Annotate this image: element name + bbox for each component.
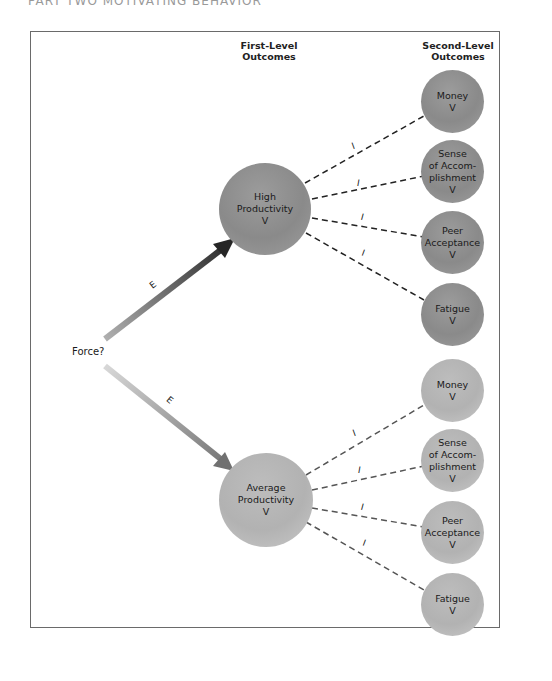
node-label: V	[449, 473, 456, 485]
node-accomplishment-bottom: Sense of Accom- plishment V	[421, 429, 484, 492]
node-label: V	[449, 605, 456, 617]
node-fatigue-bottom: Fatigue V	[421, 573, 484, 636]
node-label: V	[449, 539, 456, 551]
node-peer-acceptance-top: Peer Acceptance V	[421, 211, 484, 274]
node-label: Sense	[438, 437, 467, 449]
node-label: Fatigue	[435, 303, 470, 315]
node-label: V	[449, 391, 456, 403]
node-money-bottom: Money V	[421, 359, 484, 422]
node-peer-acceptance-bottom: Peer Acceptance V	[421, 501, 484, 564]
node-label: Productivity	[237, 203, 293, 215]
node-label: V	[263, 506, 270, 518]
node-label: Peer	[442, 515, 463, 527]
node-label: V	[449, 102, 456, 114]
node-label: Fatigue	[435, 593, 470, 605]
node-label: Average	[246, 482, 285, 494]
node-label: Sense	[438, 148, 467, 160]
node-label: Money	[437, 379, 469, 391]
node-fatigue-top: Fatigue V	[421, 283, 484, 346]
node-label: of Accom-	[429, 160, 476, 172]
node-label: Money	[437, 90, 469, 102]
node-label: Peer	[442, 225, 463, 237]
instrumentality-lines-bottom	[306, 405, 424, 590]
node-label: Acceptance	[425, 237, 480, 249]
node-money-top: Money V	[421, 70, 484, 133]
node-label: V	[449, 315, 456, 327]
node-label: High	[254, 191, 276, 203]
node-label: plishment	[429, 461, 476, 473]
node-accomplishment-top: Sense of Accom- plishment V	[421, 140, 484, 203]
expectancy-arrow-top	[105, 238, 235, 339]
node-average-productivity: Average Productivity V	[219, 453, 313, 547]
node-label: Acceptance	[425, 527, 480, 539]
expectancy-arrow-bottom	[105, 366, 234, 471]
node-label: Productivity	[238, 494, 294, 506]
instrumentality-lines-top	[305, 116, 424, 300]
node-label: V	[449, 184, 456, 196]
node-label: of Accom-	[429, 449, 476, 461]
node-high-productivity: High Productivity V	[219, 163, 311, 255]
force-label: Force?	[72, 346, 104, 357]
node-label: plishment	[429, 172, 476, 184]
node-label: V	[449, 249, 456, 261]
node-label: V	[262, 215, 269, 227]
